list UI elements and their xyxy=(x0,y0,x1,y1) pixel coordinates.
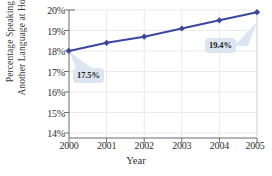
data-point xyxy=(103,40,109,46)
x-tick-label: 2000 xyxy=(49,140,89,151)
data-point xyxy=(216,17,222,23)
x-tick-label: 2005 xyxy=(235,140,272,151)
x-tick-label: 2004 xyxy=(199,140,239,151)
x-tick-label: 2003 xyxy=(162,140,202,151)
x-tick-label: 2001 xyxy=(87,140,127,151)
data-callout-first: 17.5% xyxy=(73,68,104,83)
line-chart: Percentage Speaking Another Language at … xyxy=(0,0,272,176)
data-callout-last: 19.4% xyxy=(205,38,236,53)
data-point xyxy=(141,34,147,40)
x-tick-label: 2002 xyxy=(124,140,164,151)
x-axis-title: Year xyxy=(0,155,272,166)
vertical-gridlines xyxy=(107,10,220,138)
callout-tail-last xyxy=(234,22,257,46)
y-axis-ticks xyxy=(64,10,69,133)
